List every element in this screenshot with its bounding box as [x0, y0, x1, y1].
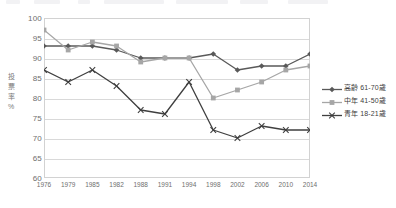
- y-axis-tick-label: 100: [28, 14, 42, 23]
- legend-label: 中年 41-50歲: [344, 95, 386, 105]
- header-remnant-strip: [34, 0, 60, 4]
- data-point-diamond: [259, 63, 265, 69]
- chart-figure: 投 票 率 % 1009590858075706560 197619791985…: [0, 0, 396, 208]
- data-point-diamond: [329, 87, 335, 93]
- data-point-diamond: [307, 51, 310, 57]
- data-point-square: [163, 56, 168, 61]
- data-point-square: [259, 80, 264, 85]
- legend-symbol-diamond-icon: [322, 81, 342, 92]
- legend-item[interactable]: 中年 41-50歲: [322, 93, 396, 106]
- series-square: [44, 28, 310, 101]
- legend-item[interactable]: 高齡 61-70歲: [322, 80, 396, 93]
- header-remnant-strip: [6, 0, 20, 4]
- data-point-cross: [186, 79, 192, 85]
- header-remnant-strip: [176, 0, 228, 4]
- y-axis-tick-label: 85: [33, 74, 42, 83]
- data-point-square: [308, 64, 310, 69]
- data-point-square: [235, 88, 240, 93]
- data-point-square: [66, 48, 71, 53]
- data-point-square: [90, 40, 95, 45]
- x-axis-tick-label: 1985: [85, 181, 99, 188]
- header-remnant-strip: [78, 0, 90, 4]
- x-axis-tick-label: 1982: [109, 181, 123, 188]
- x-axis-tick-label: 1998: [206, 181, 220, 188]
- data-point-square: [187, 56, 192, 61]
- data-point-square: [44, 28, 46, 33]
- legend-label: 青年 18-21歲: [344, 108, 386, 118]
- data-point-square: [138, 60, 143, 65]
- y-axis-tick-label: 80: [33, 94, 42, 103]
- data-point-square: [211, 96, 216, 101]
- x-axis-tick-labels: 1976197919851982198819911994199820022006…: [44, 181, 310, 197]
- series-line: [44, 30, 310, 98]
- data-point-square: [330, 100, 335, 105]
- data-point-square: [283, 68, 288, 73]
- x-axis-tick-label: 1991: [158, 181, 172, 188]
- x-axis-tick-label: 1988: [133, 181, 147, 188]
- x-axis-tick-label: 2010: [279, 181, 293, 188]
- data-point-cross: [90, 67, 96, 73]
- x-axis-tick-label: 2014: [303, 181, 317, 188]
- data-point-cross: [65, 79, 71, 85]
- y-axis-tick-label: 65: [33, 154, 42, 163]
- x-axis-tick-label: 1979: [61, 181, 75, 188]
- x-axis-tick-label: 2002: [230, 181, 244, 188]
- y-axis-tick-label: 75: [33, 114, 42, 123]
- data-point-square: [114, 44, 119, 49]
- cropped-header-remnant: [0, 0, 396, 8]
- y-axis-tick-labels: 1009590858075706560: [14, 18, 42, 178]
- x-axis-tick-label: 2006: [254, 181, 268, 188]
- y-axis-tick-label: 70: [33, 134, 42, 143]
- series-layer: [44, 18, 310, 178]
- y-axis-tick-label: 90: [33, 54, 42, 63]
- header-remnant-strip: [240, 0, 268, 4]
- data-point-diamond: [44, 43, 47, 49]
- series-line: [44, 70, 310, 138]
- legend-symbol-square-icon: [322, 94, 342, 105]
- legend: 高齡 61-70歲中年 41-50歲青年 18-21歲: [322, 80, 396, 119]
- legend-item[interactable]: 青年 18-21歲: [322, 106, 396, 119]
- data-point-cross: [114, 83, 120, 89]
- header-remnant-strip: [288, 0, 328, 4]
- y-axis-tick-label: 95: [33, 34, 42, 43]
- legend-symbol-cross-icon: [322, 107, 342, 118]
- x-axis-tick-label: 1976: [37, 181, 51, 188]
- header-remnant-strip: [104, 0, 164, 4]
- legend-label: 高齡 61-70歲: [344, 82, 386, 92]
- x-axis-tick-label: 1994: [182, 181, 196, 188]
